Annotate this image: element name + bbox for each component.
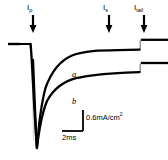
marker-label-itail: Itail: [134, 4, 143, 12]
arrow-itail: [141, 15, 148, 33]
arrow-is: [106, 15, 113, 33]
curve-label-a: a: [72, 70, 76, 79]
current-scale-label: 0.6mA/cm2: [86, 112, 123, 121]
curve-label-b: b: [72, 97, 76, 106]
current-scale-exponent: 2: [120, 111, 123, 117]
marker-label-is: Is: [103, 4, 108, 12]
current-trace-plot: [0, 0, 168, 160]
figure-container: Ip Is Itail a b 0.6mA/cm2 2ms: [0, 0, 168, 160]
marker-subscript-is: s: [105, 7, 108, 13]
marker-subscript-itail: tail: [136, 7, 143, 13]
time-scale-label: 2ms: [62, 134, 76, 142]
scale-bar: [62, 110, 83, 131]
arrow-ip: [30, 15, 37, 33]
curve-b: [33, 60, 140, 148]
current-scale-text: 0.6mA/cm: [86, 113, 120, 122]
marker-subscript-ip: p: [29, 7, 32, 13]
curve-a: [31, 44, 140, 148]
marker-label-ip: Ip: [27, 4, 32, 12]
